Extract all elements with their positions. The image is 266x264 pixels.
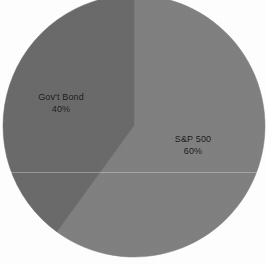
pie-chart-canvas [0, 0, 266, 264]
pie-chart-figure: Gov't Bond 40% S&P 500 60% [0, 0, 266, 264]
pie-slices [3, 0, 265, 257]
